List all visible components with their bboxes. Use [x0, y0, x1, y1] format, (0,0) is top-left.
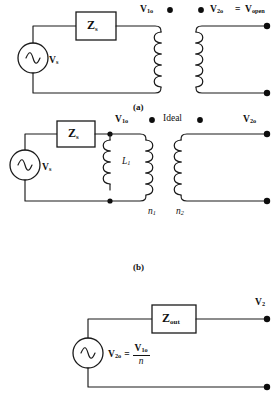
primary-turns-label-b: n1: [148, 207, 156, 217]
fraction-denominator: n: [137, 356, 146, 367]
output-voltage-equation-c: V2o = V1o n: [108, 344, 150, 366]
equals-sign-a: =: [235, 5, 240, 15]
wire-b-secondary-bottom: [181, 195, 266, 201]
primary-coil-a: [154, 32, 161, 87]
secondary-voltage-label-a: V2o: [210, 5, 223, 15]
polarity-dot-a-primary: [167, 7, 173, 13]
panel-b-circuit: [10, 117, 270, 204]
polarity-dot-b-primary: [149, 117, 155, 123]
wire-a-secondary-top: [196, 26, 266, 32]
impedance-label-c: Zout: [162, 312, 180, 326]
impedance-label-b: Zs: [68, 127, 79, 141]
magnetizing-inductor-L1: [103, 140, 110, 184]
polarity-dot-b-secondary: [197, 117, 203, 123]
wire-a-secondary-bottom: [196, 87, 266, 93]
wire-c-source-to-zout: [88, 319, 152, 338]
fraction-numerator: V1o: [133, 344, 150, 355]
wire-b-source-to-zs: [25, 134, 57, 150]
primary-voltage-label-b: V1o: [115, 115, 128, 125]
source-label-b: Vs: [42, 163, 51, 173]
wire-b-return: [25, 180, 110, 201]
wire-b-ideal-primary-bottom: [110, 195, 146, 201]
panel-caption-b: (b): [133, 263, 144, 272]
ideal-primary-coil-b: [146, 140, 153, 195]
figure-root: Zs Vs V1o V2o = Vopen (a) Zs Vs V1o Idea…: [0, 0, 280, 397]
secondary-turns-label-b: n2: [176, 207, 184, 217]
panel-caption-a: (a): [133, 103, 144, 112]
wire-a-source-to-zs: [33, 26, 76, 43]
secondary-voltage-label-b: V2o: [243, 115, 256, 125]
terminal-voltage-label-c: V2: [255, 298, 265, 308]
terminal-c-top: [264, 316, 270, 322]
primary-voltage-label-a: V1o: [140, 5, 153, 15]
equation-fraction: V1o n: [133, 344, 150, 366]
ideal-label-b: Ideal: [163, 114, 182, 124]
source-label-a: Vs: [49, 56, 58, 66]
wire-c-return: [88, 368, 266, 387]
ideal-secondary-coil-b: [174, 140, 181, 195]
circuit-drawing: [0, 0, 280, 397]
panel-a-circuit: [18, 7, 270, 96]
terminal-b-bottom: [264, 198, 270, 204]
terminal-c-bottom: [264, 384, 270, 390]
open-voltage-label-a: Vopen: [245, 5, 265, 15]
polarity-dot-a-secondary: [198, 7, 204, 13]
terminal-a-bottom: [264, 90, 270, 96]
terminal-a-top: [264, 23, 270, 29]
secondary-coil-a: [196, 32, 203, 87]
equation-lhs: V2o: [108, 350, 121, 360]
wire-a-zs-to-primary: [116, 26, 161, 32]
equation-equals: =: [124, 350, 129, 360]
wire-b-secondary-top: [181, 134, 266, 140]
wire-a-primary-return: [33, 73, 161, 93]
terminal-b-top: [264, 131, 270, 137]
wire-b-node-to-ideal-primary: [110, 134, 146, 140]
magnetizing-inductance-label-b: L1: [122, 157, 130, 167]
impedance-label-a: Zs: [87, 19, 98, 33]
